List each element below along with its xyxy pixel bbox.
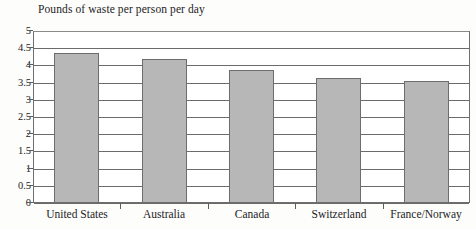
y-axis-tick-marks: [0, 31, 33, 203]
x-axis-tick-labels: United StatesAustraliaCanadaSwitzerlandF…: [33, 206, 470, 226]
chart-title: Pounds of waste per person per day: [38, 2, 205, 16]
bar-series: [33, 31, 470, 203]
x-axis-tick-label: Australia: [143, 206, 185, 222]
bar: [54, 53, 99, 203]
bar-chart-figure: Pounds of waste per person per day 54.54…: [0, 0, 476, 229]
bar: [316, 78, 361, 203]
x-axis-tick-label: Switzerland: [312, 206, 367, 222]
x-axis-tick-label: France/Norway: [390, 206, 462, 222]
bar: [142, 59, 187, 203]
x-axis-tick-label: United States: [46, 206, 108, 222]
bar: [404, 81, 449, 203]
bar: [229, 70, 274, 203]
x-axis-tick-label: Canada: [235, 206, 269, 222]
